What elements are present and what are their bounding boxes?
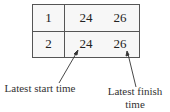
latest-finish-label: Latest finish time [100, 85, 170, 111]
latest-start-label: Latest start time [4, 82, 76, 95]
